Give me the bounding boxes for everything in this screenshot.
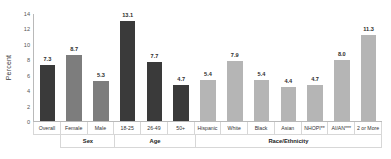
group-label: Race/Ethnicity bbox=[195, 135, 382, 148]
bar-value-label: 7.3 bbox=[43, 56, 51, 62]
category-label: Female bbox=[60, 122, 88, 135]
bar: 7.9 bbox=[227, 61, 243, 121]
bar: 8.7 bbox=[66, 55, 82, 121]
bar-value-label: 11.3 bbox=[363, 26, 374, 32]
group-label-row: SexAgeRace/Ethnicity bbox=[33, 135, 382, 148]
bar: 11.3 bbox=[361, 35, 377, 121]
category-label: Black bbox=[247, 122, 275, 135]
y-axis-tick-label: 10 bbox=[24, 42, 30, 48]
y-axis-tick-label: 14 bbox=[24, 11, 30, 17]
bar-cell: 4.7 bbox=[302, 14, 329, 121]
bar-value-label: 13.1 bbox=[122, 12, 133, 18]
bar: 5.3 bbox=[93, 81, 109, 122]
category-label: 50+ bbox=[167, 122, 195, 135]
bar: 7.7 bbox=[147, 62, 163, 121]
bar-value-label: 8.0 bbox=[338, 51, 346, 57]
y-axis-tick-label: 8 bbox=[27, 57, 30, 63]
bar-cell: 5.4 bbox=[248, 14, 275, 121]
bar-value-label: 5.3 bbox=[97, 72, 105, 78]
category-label: 18-25 bbox=[113, 122, 141, 135]
y-axis-tick-label: 0 bbox=[27, 119, 30, 125]
y-axis-title: Percent bbox=[2, 28, 16, 106]
bar-cell: 4.4 bbox=[275, 14, 302, 121]
bar-value-label: 5.4 bbox=[258, 71, 266, 77]
bar-cell: 8.0 bbox=[328, 14, 355, 121]
bar-cell: 7.3 bbox=[34, 14, 61, 121]
y-axis-tick-label: 6 bbox=[27, 73, 30, 79]
bar-value-label: 5.4 bbox=[204, 71, 212, 77]
bar: 4.4 bbox=[281, 87, 297, 121]
bar: 4.7 bbox=[307, 85, 323, 121]
bar-cell: 5.4 bbox=[195, 14, 222, 121]
group-label: Age bbox=[114, 135, 195, 148]
bar-cell: 13.1 bbox=[114, 14, 141, 121]
group-label: Sex bbox=[60, 135, 115, 148]
bar-series: 7.38.75.313.17.74.75.47.95.44.44.78.011.… bbox=[34, 14, 382, 121]
bar-value-label: 4.4 bbox=[284, 78, 292, 84]
category-label: White bbox=[220, 122, 248, 135]
bar-cell: 5.3 bbox=[88, 14, 115, 121]
category-label-row: OverallFemaleMale18-2526-4950+HispanicWh… bbox=[33, 122, 382, 135]
category-label: 2 or More bbox=[354, 122, 382, 135]
y-axis-tick-label: 2 bbox=[27, 104, 30, 110]
category-label: AI/AN*** bbox=[327, 122, 355, 135]
category-label: 26-49 bbox=[140, 122, 168, 135]
bar-cell: 7.7 bbox=[141, 14, 168, 121]
y-axis-title-text: Percent bbox=[6, 54, 13, 80]
bar-value-label: 4.7 bbox=[311, 76, 319, 82]
bar-value-label: 7.7 bbox=[151, 53, 159, 59]
bar: 7.3 bbox=[40, 65, 56, 121]
category-label: NHOPI** bbox=[301, 122, 329, 135]
bar-value-label: 4.7 bbox=[177, 76, 185, 82]
category-label: Overall bbox=[33, 122, 61, 135]
bar-cell: 8.7 bbox=[61, 14, 88, 121]
y-axis-tick-label: 4 bbox=[27, 88, 30, 94]
bar-chart: Percent 02468101214 7.38.75.313.17.74.75… bbox=[0, 0, 391, 159]
bar-value-label: 7.9 bbox=[231, 52, 239, 58]
category-label: Asian bbox=[274, 122, 302, 135]
category-axis-table: OverallFemaleMale18-2526-4950+HispanicWh… bbox=[33, 122, 382, 148]
bar-cell: 7.9 bbox=[221, 14, 248, 121]
bar: 8.0 bbox=[334, 60, 350, 121]
bar: 4.7 bbox=[173, 85, 189, 121]
bar: 13.1 bbox=[120, 21, 136, 121]
plot-area: 7.38.75.313.17.74.75.47.95.44.44.78.011.… bbox=[33, 14, 382, 122]
bar: 5.4 bbox=[200, 80, 216, 121]
bar-cell: 4.7 bbox=[168, 14, 195, 121]
y-axis-tick-label: 12 bbox=[24, 26, 30, 32]
bar: 5.4 bbox=[254, 80, 270, 121]
bar-value-label: 8.7 bbox=[70, 46, 78, 52]
bar-cell: 11.3 bbox=[355, 14, 382, 121]
category-label: Male bbox=[87, 122, 115, 135]
group-label-spacer bbox=[33, 135, 61, 148]
category-label: Hispanic bbox=[194, 122, 222, 135]
y-axis-tick-labels: 02468101214 bbox=[16, 14, 32, 122]
